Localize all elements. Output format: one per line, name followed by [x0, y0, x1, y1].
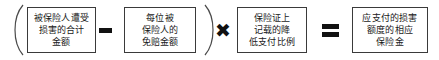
minus-operator-icon: [97, 0, 113, 60]
equals-bar-top: [322, 24, 339, 29]
term-line: 额度的相应: [367, 24, 413, 36]
term-line: 保险证上: [254, 12, 291, 24]
term-line: 金额: [52, 36, 70, 48]
multiply-operator-icon: ✖: [214, 0, 232, 60]
term-line: 每位被: [146, 12, 174, 24]
term-box-reduced-payment-ratio: 保险证上 记载的降 低支付比例: [237, 7, 307, 53]
term-line: 免赔金额: [142, 36, 179, 48]
open-paren-icon: [13, 4, 25, 56]
term-box-per-insured-deductible: 每位被 保险人的 免赔金额: [124, 7, 196, 53]
term-box-total-damage-amount: 被保险人遭受 损害的合计 金额: [27, 7, 96, 53]
equals-operator-icon: [320, 0, 340, 60]
term-line: 保险金: [376, 36, 404, 48]
equals-bar-bottom: [322, 32, 339, 37]
minus-bar: [99, 28, 112, 33]
insurance-payout-formula-diagram: 被保险人遭受 损害的合计 金额 每位被 保险人的 免赔金额 ✖ 保险证上 记载的…: [0, 0, 439, 60]
term-line: 记载的降: [254, 24, 291, 36]
term-line: 保险人的: [142, 24, 179, 36]
term-line: 应支付的损害: [362, 12, 417, 24]
term-line: 损害的合计: [39, 24, 85, 36]
term-line: 低支付比例: [249, 36, 295, 48]
term-line: 被保险人遭受: [34, 12, 89, 24]
term-box-payable-insurance-amount: 应支付的损害 额度的相应 保险金: [352, 7, 428, 53]
